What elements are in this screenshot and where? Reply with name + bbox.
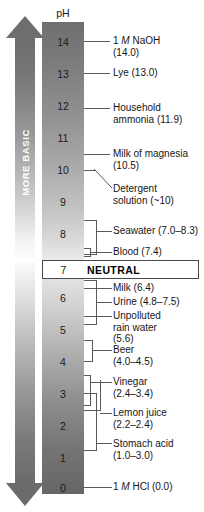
- arrow-down-shaft: [15, 262, 35, 484]
- more-acidic-arrow: MORE ACIDIC: [6, 262, 44, 506]
- ph-tick-4: 4: [42, 356, 84, 368]
- ph-tick-14: 14: [42, 36, 84, 48]
- callout-lemon: Lemon juice (2.2–2.4): [113, 407, 204, 430]
- callout-vinegar: Vinegar (2.4–3.4): [113, 376, 204, 399]
- leader-urine: [96, 302, 112, 303]
- neutral-label: NEUTRAL: [87, 264, 140, 276]
- callout-stomach-line2: (1.0–3.0): [113, 450, 153, 461]
- callout-vinegar-line1: Vinegar: [113, 376, 147, 387]
- callout-lye: Lye (13.0): [113, 67, 204, 79]
- callout-detergent: Detergent solution (~10): [113, 183, 204, 206]
- callout-hcl: 1 M HCl (0.0): [113, 481, 204, 493]
- ph-tick-0: 0: [42, 482, 84, 494]
- leader-lemon: [100, 413, 112, 414]
- neutral-ph-value: 7: [43, 264, 84, 276]
- callout-milk: Milk (6.4): [113, 282, 204, 294]
- more-basic-label: MORE BASIC: [20, 107, 31, 219]
- bracket-vinegar-top: [84, 375, 91, 376]
- leader-seawater: [96, 231, 112, 232]
- ph-tick-8: 8: [42, 228, 84, 240]
- leader-lye: [84, 73, 110, 74]
- neutral-callout-box: 7 NEUTRAL: [42, 260, 199, 279]
- callout-naoh-line2: (14.0): [113, 47, 139, 58]
- callout-ammonia-line1: Household: [113, 102, 161, 113]
- arrow-down-head-icon: [6, 483, 44, 506]
- bracket-beer-bottom: [84, 361, 93, 362]
- callout-milk-line1: Milk (6.4): [113, 282, 154, 293]
- callout-magnesia-line2: (10.5): [113, 160, 139, 171]
- callout-rain-line3: (5.6): [113, 333, 134, 344]
- ph-tick-3: 3: [42, 388, 84, 400]
- callout-detergent-line1: Detergent: [113, 183, 157, 194]
- callout-rain-line2: rain water: [113, 322, 157, 333]
- callout-magnesia: Milk of magnesia (10.5): [113, 148, 204, 171]
- leader-blood: [90, 252, 112, 253]
- leader-stomach: [96, 443, 112, 444]
- ph-tick-13: 13: [42, 68, 84, 80]
- ph-tick-6: 6: [42, 292, 84, 304]
- leader-naoh: [84, 41, 110, 42]
- callout-beer-line2: (4.0–4.5): [113, 356, 153, 367]
- more-basic-arrow: MORE BASIC: [6, 16, 44, 258]
- callout-detergent-line2: solution (~10): [113, 195, 174, 206]
- leader-magnesia: [84, 154, 110, 155]
- ph-tick-9: 9: [42, 196, 84, 208]
- callout-stomach-line1: Stomach acid: [113, 438, 174, 449]
- callout-urine: Urine (4.8–7.5): [113, 296, 204, 308]
- bracket-stomach-top: [84, 393, 97, 394]
- bracket-lemon: [100, 380, 101, 410]
- callout-lemon-line1: Lemon juice: [113, 407, 167, 418]
- bracket-urine-top: [84, 280, 97, 281]
- ph-tick-12: 12: [42, 100, 84, 112]
- bracket-beer: [92, 340, 93, 362]
- callout-lye-line1: Lye (13.0): [113, 67, 158, 78]
- leader-milk: [84, 288, 112, 289]
- bracket-urine-bottom: [84, 324, 97, 325]
- leader-hcl: [84, 487, 112, 488]
- ph-tick-2: 2: [42, 420, 84, 432]
- bracket-blood-bottom: [84, 256, 91, 257]
- leader-rain: [84, 316, 112, 317]
- callout-hcl-line1b: HCl (0.0): [130, 481, 173, 492]
- callout-hcl-molar: M: [121, 481, 129, 492]
- bracket-blood-top: [84, 248, 91, 249]
- bracket-vinegar: [90, 375, 91, 406]
- ph-tick-5: 5: [42, 324, 84, 336]
- ph-tick-10: 10: [42, 164, 84, 176]
- ph-tick-11: 11: [42, 132, 84, 144]
- bracket-stomach-bottom: [84, 450, 97, 451]
- ph-tick-1: 1: [42, 452, 84, 464]
- callout-blood-line1: Blood (7.4): [113, 246, 162, 257]
- callout-rain-line1: Unpolluted: [113, 310, 161, 321]
- callout-ammonia: Household ammonia (11.9): [113, 102, 204, 125]
- callout-urine-line1: Urine (4.8–7.5): [113, 296, 180, 307]
- leader-detergent-diagonal: [94, 168, 114, 190]
- ph-axis-header: pH: [42, 7, 84, 19]
- callout-magnesia-line1: Milk of magnesia: [113, 148, 188, 159]
- bracket-vinegar-bottom: [84, 405, 91, 406]
- callout-rain: Unpolluted rain water (5.6): [113, 310, 204, 345]
- callout-naoh: 1 M NaOH (14.0): [113, 35, 204, 58]
- callout-beer-line1: Beer: [113, 344, 134, 355]
- callout-lemon-line2: (2.2–2.4): [113, 419, 153, 430]
- bracket-beer-top: [84, 340, 93, 341]
- bracket-lemon-bottom: [84, 410, 101, 411]
- callout-naoh-molar: M: [121, 35, 129, 46]
- bracket-seawater-top: [84, 220, 97, 221]
- callout-beer: Beer (4.0–4.5): [113, 344, 204, 367]
- callout-stomach: Stomach acid (1.0–3.0): [113, 438, 204, 461]
- arrow-up-head-icon: [6, 16, 44, 38]
- leader-vinegar: [90, 382, 112, 383]
- callout-blood: Blood (7.4): [113, 246, 204, 258]
- callout-ammonia-line2: ammonia (11.9): [113, 114, 182, 125]
- bracket-seawater: [96, 220, 97, 255]
- callout-seawater: Seawater (7.0–8.3): [113, 225, 204, 237]
- ph-scale-diagram: MORE BASIC MORE ACIDIC pH 14 13 12 11 10…: [0, 0, 204, 512]
- leader-beer: [92, 350, 112, 351]
- leader-ammonia: [84, 108, 110, 109]
- callout-vinegar-line2: (2.4–3.4): [113, 388, 153, 399]
- callout-seawater-line1: Seawater (7.0–8.3): [113, 225, 198, 236]
- callout-naoh-line1b: NaOH: [130, 35, 161, 46]
